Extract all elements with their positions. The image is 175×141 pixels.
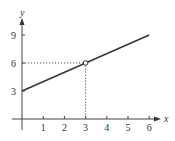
y-tick-labels: 3 6 9 xyxy=(11,30,16,97)
x-axis-arrow-icon xyxy=(154,117,161,122)
y-axis-label: y xyxy=(19,7,25,18)
x-tick-labels: 1 2 3 4 5 6 xyxy=(41,122,152,133)
x-tick-label: 4 xyxy=(104,122,109,133)
x-axis-label: x xyxy=(163,113,169,124)
chart: y x 1 2 3 4 5 6 3 6 9 xyxy=(0,0,175,141)
x-tick-label: 2 xyxy=(62,122,67,133)
x-tick-label: 5 xyxy=(126,122,131,133)
y-tick-label: 6 xyxy=(11,58,16,69)
x-tick-label: 6 xyxy=(147,122,152,133)
x-tick-label: 3 xyxy=(83,122,88,133)
y-tick-label: 3 xyxy=(11,86,16,97)
y-tick-label: 9 xyxy=(11,30,16,41)
x-tick-label: 1 xyxy=(41,122,46,133)
open-circle-point xyxy=(83,61,88,66)
y-axis-arrow-icon xyxy=(20,18,25,25)
